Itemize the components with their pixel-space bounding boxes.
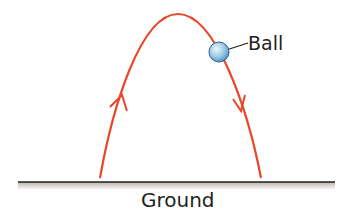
ground-label: Ground [141, 188, 215, 212]
diagram-canvas [0, 0, 354, 215]
ball-label: Ball [248, 32, 283, 54]
projectile-diagram: Ball Ground [0, 0, 354, 215]
ball-icon [209, 42, 229, 62]
trajectory-path [100, 14, 261, 178]
